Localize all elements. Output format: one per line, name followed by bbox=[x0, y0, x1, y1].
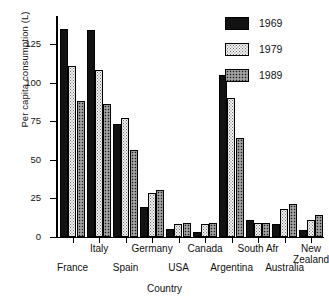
y-tick-label-25: 25 bbox=[30, 193, 41, 203]
x-axis-title: Country bbox=[0, 283, 329, 294]
bar-new-1979 bbox=[307, 220, 315, 237]
bar-australia-1969 bbox=[272, 224, 280, 236]
x-label-italy: Italy bbox=[90, 243, 108, 254]
x-label-spain: Spain bbox=[113, 262, 139, 273]
x-label-usa: USA bbox=[168, 262, 189, 273]
y-tick-25: 25 bbox=[50, 198, 56, 199]
bar-new-1989 bbox=[315, 215, 323, 237]
bar-france-1979 bbox=[68, 66, 76, 237]
x-tick bbox=[285, 237, 286, 243]
bar-south-afr-1969 bbox=[246, 220, 254, 237]
bar-germany-1989 bbox=[156, 190, 164, 236]
bar-italy-1979 bbox=[95, 70, 103, 236]
y-tick-75: 75 bbox=[50, 121, 56, 122]
y-axis-line bbox=[56, 16, 58, 238]
bar-chart: Per capita consumption (L) 0255075100125… bbox=[0, 0, 329, 304]
plot-area: 0255075100125 bbox=[56, 16, 324, 238]
bar-spain-1969 bbox=[113, 124, 121, 236]
bar-spain-1979 bbox=[121, 118, 129, 237]
bar-canada-1979 bbox=[201, 224, 209, 236]
bar-germany-1979 bbox=[148, 193, 156, 236]
bar-australia-1979 bbox=[280, 209, 288, 237]
x-label-south-afr: South Afr bbox=[238, 243, 279, 254]
legend-swatch-1969 bbox=[225, 17, 249, 30]
bar-italy-1969 bbox=[87, 30, 95, 236]
bar-argentina-1979 bbox=[227, 98, 235, 237]
y-tick-label-100: 100 bbox=[25, 78, 41, 88]
bar-canada-1969 bbox=[193, 232, 201, 237]
x-label-germany: Germany bbox=[132, 243, 173, 254]
y-tick-label-50: 50 bbox=[30, 155, 41, 165]
y-tick-125: 125 bbox=[50, 44, 56, 45]
bar-spain-1989 bbox=[130, 150, 138, 236]
bar-argentina-1969 bbox=[219, 75, 227, 237]
bar-south-afr-1979 bbox=[254, 223, 262, 237]
bar-usa-1989 bbox=[183, 223, 191, 237]
bar-south-afr-1989 bbox=[262, 223, 270, 237]
y-tick-50: 50 bbox=[50, 160, 56, 161]
y-tick-label-0: 0 bbox=[36, 232, 41, 242]
bar-germany-1969 bbox=[140, 207, 148, 236]
bar-usa-1969 bbox=[166, 229, 174, 237]
x-tick bbox=[126, 237, 127, 243]
bar-canada-1989 bbox=[209, 223, 217, 237]
x-tick bbox=[73, 237, 74, 243]
y-tick-label-125: 125 bbox=[25, 39, 41, 49]
bar-usa-1979 bbox=[174, 224, 182, 236]
bar-new-1969 bbox=[299, 230, 307, 236]
legend-label-1969: 1969 bbox=[259, 16, 282, 31]
legend-label-1989: 1989 bbox=[259, 68, 282, 83]
legend-label-1979: 1979 bbox=[259, 42, 282, 57]
bar-argentina-1989 bbox=[236, 138, 244, 237]
bar-australia-1989 bbox=[289, 204, 297, 236]
legend-swatch-1989 bbox=[225, 69, 249, 82]
x-label-canada: Canada bbox=[188, 243, 223, 254]
y-tick-label-75: 75 bbox=[30, 116, 41, 126]
x-label-argentina: Argentina bbox=[210, 262, 253, 273]
legend-swatch-1979 bbox=[225, 43, 249, 56]
x-label-france: France bbox=[57, 262, 88, 273]
x-tick bbox=[179, 237, 180, 243]
y-tick-100: 100 bbox=[50, 83, 56, 84]
x-tick bbox=[232, 237, 233, 243]
x-label-line2: Zealand bbox=[293, 254, 329, 265]
bar-france-1989 bbox=[77, 101, 85, 236]
bar-france-1969 bbox=[60, 29, 68, 237]
bar-italy-1989 bbox=[103, 104, 111, 236]
y-tick-0: 0 bbox=[50, 237, 56, 238]
x-label-new: NewZealand bbox=[293, 243, 329, 265]
